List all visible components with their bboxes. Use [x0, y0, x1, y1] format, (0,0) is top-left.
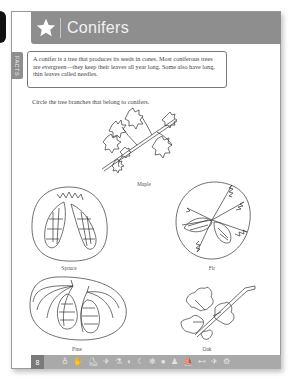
- hand-icon: ✋: [73, 358, 83, 366]
- airplane-icon: ✈: [211, 358, 218, 366]
- pine-figure[interactable]: [27, 274, 129, 342]
- fir-branch-icon: [172, 180, 254, 262]
- figure-icon: ♟: [171, 358, 178, 366]
- caption-pine: Pine: [57, 346, 97, 352]
- worksheet-page: Conifers FACTS A conifer is a tree that …: [11, 11, 281, 369]
- ship-icon: ⛵: [183, 358, 193, 366]
- page-number: 8: [31, 355, 44, 369]
- spruce-cones-icon: [29, 184, 109, 264]
- page-footer: 8 ♁ ✋ ⛸ ✈ ⚗ ◐ ☾ ✻ ● ♟ ⛵ ⊷ ✈ ⚙: [31, 355, 281, 369]
- caption-oak: Oak: [187, 346, 227, 352]
- car-icon: ⊷: [198, 358, 206, 366]
- caption-maple: Maple: [124, 181, 164, 187]
- star-icon: [35, 17, 57, 39]
- shoe-icon: ⛸: [88, 358, 98, 366]
- microscope-icon: ⚗: [115, 358, 122, 366]
- instruction-text: Circle the tree branches that belong to …: [32, 98, 149, 105]
- moon-icon: ☾: [137, 358, 144, 366]
- ball-icon: ●: [161, 358, 166, 366]
- bicycle-icon: ⚙: [223, 358, 230, 366]
- butterfly-icon: ✻: [149, 358, 156, 366]
- facts-tab: FACTS: [11, 52, 23, 79]
- facts-box: A conifer is a tree that produces its se…: [27, 51, 227, 88]
- oak-figure[interactable]: [175, 280, 260, 345]
- fish-icon: ◐: [127, 358, 132, 366]
- section-edge-tab: [0, 11, 6, 43]
- maple-branch-icon: [97, 107, 182, 177]
- caption-fir: Fir: [192, 265, 232, 271]
- maple-figure[interactable]: [97, 107, 182, 177]
- oak-branch-icon: [175, 280, 260, 345]
- facts-tab-label: FACTS: [14, 55, 20, 75]
- fir-figure[interactable]: [172, 180, 254, 262]
- page-header: Conifers: [31, 12, 281, 44]
- pine-cones-icon: [27, 274, 129, 342]
- bottle-icon: ♁: [62, 358, 68, 366]
- caption-spruce: Spruce: [49, 265, 89, 271]
- plane-icon: ✈: [103, 358, 110, 366]
- spruce-figure[interactable]: [29, 184, 109, 264]
- header-divider: [60, 18, 61, 38]
- footer-icon-strip: ♁ ✋ ⛸ ✈ ⚗ ◐ ☾ ✻ ● ♟ ⛵ ⊷ ✈ ⚙: [62, 358, 230, 366]
- page-title: Conifers: [67, 19, 129, 37]
